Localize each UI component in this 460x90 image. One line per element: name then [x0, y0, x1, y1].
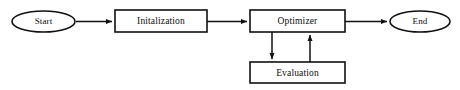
evaluation-label: Evaluation [276, 68, 319, 78]
node-initalization[interactable]: Initalization [115, 10, 207, 32]
node-end[interactable]: End [390, 11, 450, 32]
flowchart-svg: Start Initalization Optimizer Evaluation… [0, 0, 460, 90]
end-label: End [413, 16, 428, 26]
start-label: Start [35, 16, 53, 26]
node-optimizer[interactable]: Optimizer [250, 10, 345, 32]
node-evaluation[interactable]: Evaluation [250, 62, 345, 83]
node-start[interactable]: Start [12, 11, 75, 32]
flowchart-canvas: Start Initalization Optimizer Evaluation… [0, 0, 460, 90]
optimizer-label: Optimizer [278, 16, 319, 26]
initalization-label: Initalization [137, 16, 185, 26]
